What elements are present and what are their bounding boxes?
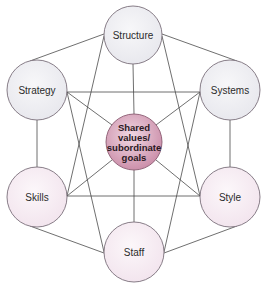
edge-structure-strategy	[30, 34, 104, 61]
node-systems: Systems	[200, 60, 260, 120]
mckinsey-7s-diagram: Structure Strategy Systems Skills Style …	[0, 0, 267, 291]
node-style: Style	[200, 167, 260, 227]
node-staff: Staff	[104, 222, 164, 282]
edge-structure-shared	[133, 64, 134, 114]
skills-label: Skills	[25, 192, 48, 203]
edge-skills-staff	[30, 226, 104, 253]
node-shared-values: Shared values/ subordinate goals	[106, 114, 162, 170]
edge-structure-systems	[162, 34, 237, 61]
structure-label: Structure	[113, 30, 154, 41]
systems-label: Systems	[211, 85, 249, 96]
node-structure: Structure	[104, 6, 162, 64]
staff-label: Staff	[124, 247, 145, 258]
node-strategy: Strategy	[7, 60, 67, 120]
strategy-label: Strategy	[18, 85, 55, 96]
shared-values-line-4: goals	[122, 152, 147, 163]
edge-style-staff	[164, 226, 237, 253]
style-label: Style	[219, 192, 242, 203]
node-skills: Skills	[7, 167, 67, 227]
